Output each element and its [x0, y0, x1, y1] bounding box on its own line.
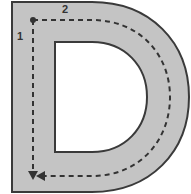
stroke-label-1: 1 — [17, 30, 23, 42]
stroke-label-2: 2 — [62, 3, 68, 15]
letter-d-diagram: 1 2 — [0, 0, 191, 194]
letter-d-shape — [12, 2, 189, 192]
start-dot — [30, 17, 36, 23]
